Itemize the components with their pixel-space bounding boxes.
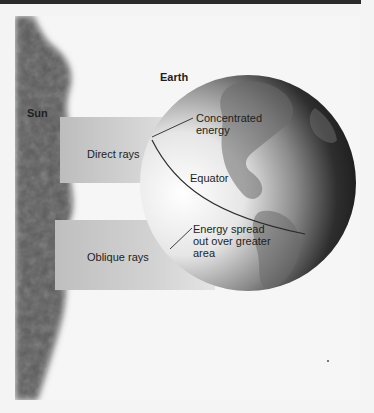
speck-mark (327, 360, 329, 362)
equator-label: Equator (190, 172, 229, 184)
direct-rays-label: Direct rays (87, 148, 140, 160)
oblique-rays-label: Oblique rays (87, 251, 149, 263)
concentrated-energy-line-1: Concentrated (196, 112, 276, 124)
energy-spread-line-1: Energy spread (193, 223, 283, 235)
figure-panel: Sun Earth Direct rays Oblique rays Conce… (15, 16, 360, 400)
concentrated-energy-label: Concentrated energy (196, 112, 276, 136)
sun-label: Sun (27, 107, 48, 119)
earth-label: Earth (160, 71, 188, 83)
energy-spread-line-3: area (193, 247, 283, 259)
header-bar (0, 0, 361, 4)
concentrated-energy-line-2: energy (196, 124, 276, 136)
energy-spread-label: Energy spread out over greater area (193, 223, 283, 259)
energy-spread-line-2: out over greater (193, 235, 283, 247)
